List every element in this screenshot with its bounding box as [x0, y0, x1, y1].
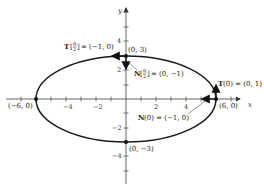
y-axis-label: y: [117, 7, 123, 15]
svg-text:= (−1, 0): = (−1, 0): [81, 43, 114, 51]
svg-text:2: 2: [73, 46, 76, 52]
y-tick-label: 4: [117, 37, 121, 45]
y-tick-label: −2: [112, 124, 122, 132]
svg-text:(0) = (0, 1): (0) = (0, 1): [223, 80, 262, 88]
x-tick-label: 4: [184, 103, 188, 111]
y-axis: 4 2 −2 −4 y: [112, 7, 129, 184]
svg-text:]: ]: [77, 43, 80, 51]
svg-text:= (0, −1): = (0, −1): [151, 70, 184, 78]
x-tick-label: 2: [154, 103, 158, 111]
ellipse-diagram: −4 −2 2 4 x 4 2 −2 −4 y: [0, 0, 264, 191]
svg-text:]: ]: [147, 70, 150, 78]
x-tick-label: −2: [93, 103, 103, 111]
x-axis-label: x: [248, 101, 252, 109]
point-label-top: (0, 3): [128, 46, 147, 54]
point-label-bottom: (0, −3): [129, 145, 154, 153]
svg-text:(0) = (−1, 0): (0) = (−1, 0): [144, 114, 189, 122]
label-t-pi-2: T [ π 2 ] = (−1, 0): [64, 40, 114, 52]
label-n-0: N (0) = (−1, 0): [138, 113, 189, 122]
y-tick-label: −4: [112, 152, 122, 160]
point-label-left: (−6, 0): [8, 102, 33, 110]
x-tick-label: −4: [63, 103, 73, 111]
svg-text:2: 2: [143, 73, 146, 79]
label-t-0: T (0) = (0, 1): [218, 79, 262, 88]
point-label-right: (6, 0): [219, 102, 238, 110]
y-tick-label: 2: [117, 66, 121, 74]
label-n-pi-2: N [ π 2 ] = (0, −1): [134, 67, 184, 79]
leader-line-n-0: [188, 101, 205, 114]
